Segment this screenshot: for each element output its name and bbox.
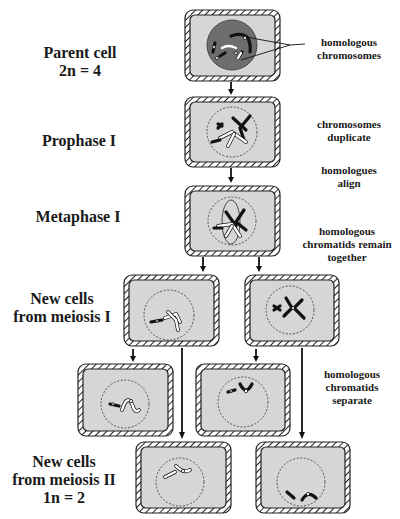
annotation-chromatids-remain-together: homologous chromatids remain together: [296, 225, 398, 264]
annotation-text: chromosomes: [305, 49, 393, 62]
annotation-chromosomes-duplicate: chromosomes duplicate: [305, 118, 393, 144]
arrow-down-icon: [179, 348, 185, 439]
arrow-down-icon: [299, 348, 305, 439]
stage-label-parent: Parent cell 2n = 4: [20, 44, 140, 80]
arrow-down-icon: [256, 257, 262, 272]
annotation-text: homologous: [305, 36, 393, 49]
stage-label-prophase: Prophase I: [14, 132, 144, 150]
annotation-text: homologues: [305, 164, 393, 177]
stage-label-text: Metaphase I: [8, 208, 148, 226]
annotation-homologues-align: homologues align: [305, 164, 393, 190]
stage-label-metaphase: Metaphase I: [8, 208, 148, 226]
annotation-homologous-chromosomes: homologous chromosomes: [305, 36, 393, 62]
annotation-text: together: [296, 251, 398, 264]
arrow-down-icon: [253, 349, 259, 362]
ploidy-label: 2n = 4: [20, 62, 140, 80]
stage-label-meiosis2: New cells from meiosis II 1n = 2: [4, 453, 124, 507]
stage-label-text: from meiosis I: [4, 308, 120, 326]
cell-metaphase: [185, 186, 280, 256]
cell-meiosis2-b: [196, 364, 290, 436]
cell-meiosis2-d: [256, 442, 350, 513]
ploidy-label: 1n = 2: [4, 489, 124, 507]
cell-meiosis2-a: [78, 364, 173, 436]
stage-label-meiosis1: New cells from meiosis I: [4, 290, 120, 326]
annotation-text: chromatids remain: [296, 238, 398, 251]
cell-meiosis1-right: [245, 275, 339, 346]
stage-label-text: Prophase I: [14, 132, 144, 150]
stage-label-text: from meiosis II: [4, 471, 124, 489]
cell-prophase: [185, 97, 280, 167]
arrow-down-icon: [130, 349, 136, 362]
stage-label-text: New cells: [4, 290, 120, 308]
annotation-text: chromosomes: [305, 118, 393, 131]
arrow-down-icon: [228, 82, 234, 95]
stage-label-text: Parent cell: [20, 44, 140, 62]
annotation-text: homologous: [296, 225, 398, 238]
annotation-text: separate: [312, 394, 392, 407]
annotation-text: chromatids: [312, 381, 392, 394]
arrow-down-icon: [200, 257, 206, 272]
annotation-text: duplicate: [305, 131, 393, 144]
cell-meiosis1-left: [124, 275, 219, 346]
annotation-chromatids-separate: homologous chromatids separate: [312, 368, 392, 407]
annotation-text: align: [305, 177, 393, 190]
annotation-text: homologous: [312, 368, 392, 381]
stage-label-text: New cells: [4, 453, 124, 471]
cell-parent: [185, 10, 280, 81]
arrow-down-icon: [228, 168, 234, 183]
cell-meiosis2-c: [136, 442, 231, 513]
